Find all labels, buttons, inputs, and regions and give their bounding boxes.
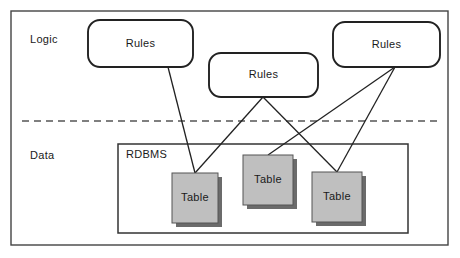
table-box-3-label: Table	[312, 190, 362, 202]
rdbms-container-label: RDBMS	[126, 148, 167, 160]
rules-box-1-label: Rules	[88, 37, 193, 49]
diagram-canvas: Logic Data RDBMS Rules Rules Rules Table…	[0, 0, 460, 258]
logic-layer-label: Logic	[30, 33, 58, 45]
rules-box-2-label: Rules	[209, 68, 318, 80]
table-box-2-label: Table	[243, 173, 293, 185]
table-box-1-label: Table	[172, 191, 218, 203]
data-layer-label: Data	[30, 149, 54, 161]
rules-box-3-label: Rules	[333, 38, 440, 50]
